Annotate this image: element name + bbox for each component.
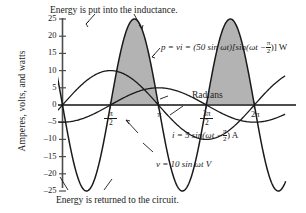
power-equation-tail: )] W	[271, 42, 288, 52]
bottom-caption: Energy is returned to the circuit.	[56, 196, 179, 206]
power-equation-lead: p = vi = (50 sin ωt)[sin(ωt −	[161, 42, 266, 52]
voltage-equation: v = 10 sin ωt V	[156, 160, 211, 169]
y-tick-label: 20	[48, 31, 57, 40]
y-tick-label: –20	[44, 169, 57, 178]
current-equation-fraction: π2	[223, 128, 228, 143]
y-tick-label: 5	[52, 83, 56, 92]
shaded-energy-regions	[110, 19, 254, 105]
x-tick-label: π	[153, 110, 165, 119]
current-equation-tail: ) A	[227, 130, 238, 140]
current-equation: i = 5 sin(ωt −π2) A	[172, 128, 238, 143]
y-tick-label: –10	[44, 134, 57, 143]
chart-figure: Amperes, volts, and watts	[0, 0, 306, 213]
y-tick-label: –5	[48, 117, 57, 126]
x-tick-label: 3π2	[200, 110, 213, 127]
y-tick-label: –25	[44, 186, 57, 195]
y-tick-label: –15	[44, 152, 57, 161]
y-tick-label: 0	[52, 100, 56, 109]
top-caption: Energy is put into the inductance.	[50, 6, 178, 16]
y-tick-label: 10	[48, 66, 57, 75]
current-equation-lead: i = 5 sin(ωt −	[172, 130, 223, 140]
x-axis-label: Radians	[192, 91, 223, 101]
current-frac-denominator: 2	[223, 136, 228, 143]
chart-canvas	[0, 0, 306, 213]
x-tick-label: 2π	[249, 110, 261, 119]
power-equation-fraction: π2	[266, 40, 271, 55]
x-tick-label: π2	[104, 110, 117, 127]
power-frac-denominator: 2	[266, 48, 271, 55]
y-tick-label: 15	[48, 48, 57, 57]
power-equation: p = vi = (50 sin ωt)[sin(ωt −π2)] W	[161, 40, 287, 55]
y-axis-label: Amperes, volts, and watts	[17, 41, 27, 161]
